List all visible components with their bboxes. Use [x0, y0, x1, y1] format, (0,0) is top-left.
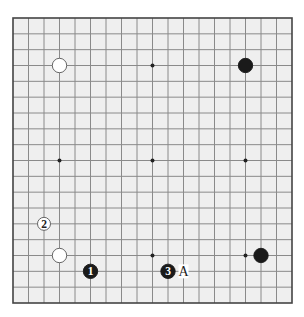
go-board: 123A [0, 0, 304, 317]
move-number-label: 1 [88, 265, 94, 277]
star-point-icon [244, 159, 248, 163]
move-number-label: 2 [41, 218, 47, 230]
black-stone [238, 58, 252, 72]
point-marker-label: A [178, 264, 189, 279]
star-point-icon [58, 159, 62, 163]
star-point-icon [244, 254, 248, 258]
star-point-icon [151, 254, 155, 258]
move-number-label: 3 [165, 265, 171, 277]
white-stone [52, 58, 66, 72]
star-point-icon [151, 64, 155, 68]
star-point-icon [151, 159, 155, 163]
white-stone [52, 248, 66, 262]
black-stone [254, 248, 268, 262]
go-board-diagram: 123A [0, 0, 304, 317]
